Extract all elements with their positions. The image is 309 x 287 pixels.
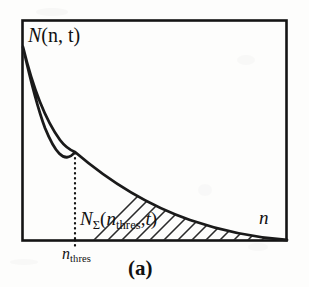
- area-label-close-paren: ): [151, 208, 157, 229]
- area-label-subscript-sigma: Σ: [93, 218, 100, 232]
- figure-panel-a: N(n, t) NΣ(nthres,t) nthres n (a): [0, 0, 309, 287]
- threshold-axis-label: nthres: [62, 246, 91, 265]
- area-label: NΣ(nthres,t): [80, 209, 157, 231]
- curve-label-args: (n, t): [41, 24, 80, 46]
- threshold-label-base: n: [62, 245, 70, 262]
- curve-label-base: N: [28, 24, 41, 46]
- x-axis-label: n: [259, 208, 269, 227]
- area-label-arg-n-subscript: thres: [116, 218, 141, 232]
- area-label-arg-n: n: [106, 208, 116, 229]
- curve-label: N(n, t): [28, 25, 80, 45]
- area-label-base: N: [80, 208, 93, 229]
- figure-caption: (a): [128, 258, 153, 279]
- threshold-label-subscript: thres: [70, 253, 91, 264]
